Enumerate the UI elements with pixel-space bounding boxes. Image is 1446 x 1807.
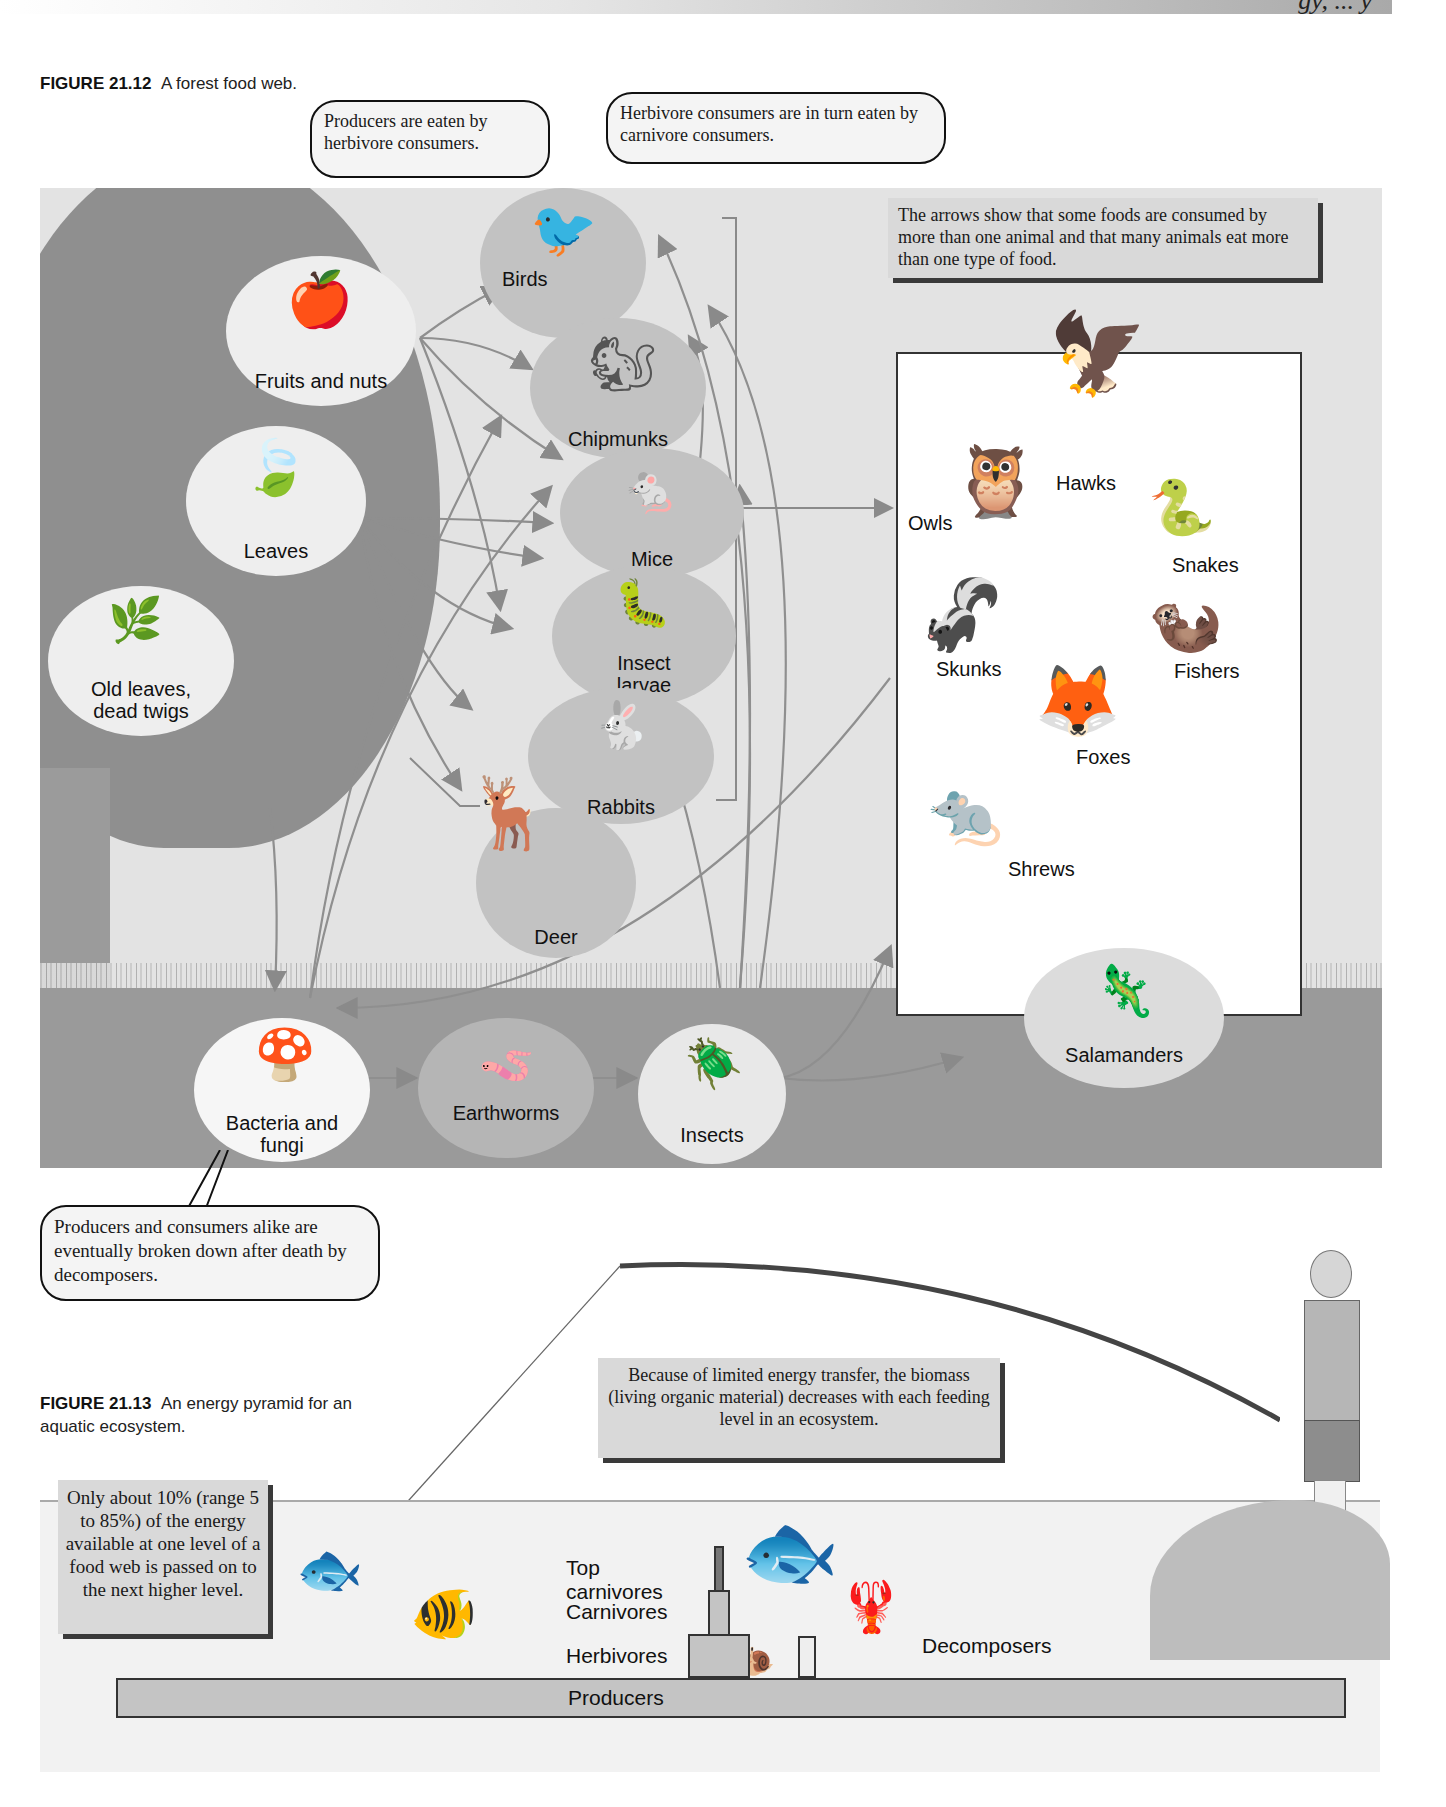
callout-pointer <box>180 1150 240 1210</box>
node-insect-larvae: 🐛 Insect larvae <box>552 566 736 706</box>
node-mice: 🐁 Mice <box>560 448 744 578</box>
angler-head <box>1310 1250 1352 1298</box>
bar-producers: Producers <box>116 1678 1346 1718</box>
rabbit-icon: 🐇 <box>592 702 649 748</box>
level-top-carnivores: Top carnivores <box>566 1556 663 1604</box>
node-salamanders: 🦎 Salamanders <box>1024 948 1224 1088</box>
figure-number: FIGURE 21.13 <box>40 1394 152 1413</box>
node-insects: 🪲 Insects <box>638 1024 786 1164</box>
running-header: gy, ... y <box>0 0 1392 14</box>
beetle-icon: 🪲 <box>684 1040 744 1088</box>
node-birds: 🐦 Birds <box>480 188 646 338</box>
twig-icon: 🌿 <box>108 598 163 642</box>
node-old-leaves-dead-twigs: 🌿 Old leaves, dead twigs <box>48 586 234 736</box>
caterpillar-icon: 🐛 <box>614 580 671 626</box>
node-earthworms: 🪱 Earthworms <box>418 1018 594 1158</box>
angler-shorts <box>1304 1420 1360 1482</box>
chipmunk-icon: 🐿 <box>588 336 657 390</box>
shrew-icon: 🐀 <box>928 784 1003 844</box>
hawk-icon: 🦅 <box>1048 314 1148 394</box>
level-decomposers: Decomposers <box>922 1634 1052 1658</box>
figure-number: FIGURE 21.12 <box>40 74 152 93</box>
callout-decomposers: Producers and consumers alike are eventu… <box>40 1205 380 1301</box>
fish-icon: 🐠 <box>410 1586 477 1640</box>
worm-icon: 🪱 <box>478 1042 535 1088</box>
level-producers: Producers <box>568 1686 664 1710</box>
skunk-icon: 🦨 <box>918 580 1005 650</box>
node-chipmunks: 🐿 Chipmunks <box>530 318 706 458</box>
callout-producers: Producers are eaten by herbivore consume… <box>310 100 550 178</box>
node-rabbits: 🐇 Rabbits <box>528 688 714 824</box>
fisher-icon: 🦦 <box>1148 594 1223 654</box>
running-header-text: gy, ... y <box>1298 0 1372 16</box>
bar-herbivores <box>688 1634 750 1678</box>
node-fruits-and-nuts: 🍎 Fruits and nuts <box>226 256 416 406</box>
bar-top-carnivores <box>714 1546 724 1592</box>
figure-21-13-caption: FIGURE 21.13 An energy pyramid for an aq… <box>40 1392 380 1438</box>
node-leaves: 🍃 Leaves <box>186 426 366 576</box>
energy-transfer-note: Only about 10% (range 5 to 85%) of the e… <box>58 1480 268 1634</box>
carnivores-panel: 🦅 Hawks 🦉 Owls 🐍 Snakes 🦨 Skunks 🦦 Fishe… <box>896 352 1302 1016</box>
level-carnivores: Carnivores <box>566 1600 668 1624</box>
fruit-icon: 🍎 <box>286 272 353 326</box>
node-deer: 🦌 Deer <box>476 808 636 958</box>
level-herbivores: Herbivores <box>566 1644 668 1668</box>
leaf-icon: 🍃 <box>242 440 309 494</box>
fox-icon: 🦊 <box>1034 666 1121 736</box>
snake-icon: 🐍 <box>1148 480 1215 534</box>
fish-icon: 🐟 <box>296 1542 363 1596</box>
owl-icon: 🦉 <box>952 446 1039 516</box>
mushroom-icon: 🍄 <box>254 1030 316 1080</box>
arrows-explanation-note: The arrows show that some foods are cons… <box>888 198 1318 278</box>
salamander-icon: 🦎 <box>1094 966 1156 1016</box>
figure-caption-text: A forest food web. <box>161 74 297 93</box>
bar-decomposers <box>798 1636 816 1678</box>
bar-carnivores <box>708 1590 730 1636</box>
crayfish-icon: 🦞 <box>840 1582 902 1632</box>
angler-shirt <box>1304 1300 1360 1422</box>
figure-21-12-caption: FIGURE 21.12 A forest food web. <box>40 72 300 95</box>
forest-food-web-scene: 🍎 Fruits and nuts 🍃 Leaves 🌿 Old leaves,… <box>40 188 1382 1168</box>
mouse-icon: 🐁 <box>622 466 679 512</box>
bird-icon: 🐦 <box>530 202 597 256</box>
deer-icon: 🦌 <box>466 778 553 848</box>
bass-icon: 🐟 <box>740 1512 840 1592</box>
callout-herbivores: Herbivore consumers are in turn eaten by… <box>606 92 946 164</box>
node-bacteria-and-fungi: 🍄 Bacteria and fungi <box>194 1018 370 1162</box>
